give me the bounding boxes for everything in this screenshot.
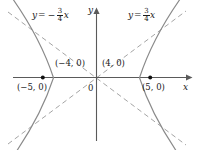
x-axis-label: x <box>183 82 188 92</box>
asymptote-left-numerator: 3 <box>57 8 63 15</box>
y-axis-arrow-icon <box>93 8 99 15</box>
asymptote-left-sign: − <box>47 11 57 20</box>
asymptote-right-denominator: 4 <box>143 15 149 23</box>
y-axis-label: y <box>88 5 93 15</box>
asymptote-right-numerator: 3 <box>143 8 149 15</box>
origin-label: 0 <box>88 83 93 93</box>
asymptote-right-variable: x <box>150 11 155 20</box>
focus-right-point <box>148 76 152 80</box>
x-axis-arrow-icon <box>186 74 193 80</box>
vertex-right-label: (4, 0) <box>102 58 125 68</box>
asymptote-left-equals: = <box>37 11 47 20</box>
asymptote-left-fraction: 3 4 <box>57 8 63 24</box>
focus-left-label: (−5, 0) <box>17 82 47 92</box>
asymptote-left-equation: y = − 3 4 x <box>32 8 69 24</box>
asymptote-left-variable: x <box>64 11 69 20</box>
asymptote-right-fraction: 3 4 <box>143 8 149 24</box>
asymptote-left-denominator: 4 <box>57 15 63 23</box>
vertex-left-label: (−4, 0) <box>55 58 85 68</box>
asymptote-right-equals: = <box>133 11 143 20</box>
asymptote-right-equation: y = 3 4 x <box>128 8 155 24</box>
focus-left-point <box>41 76 45 80</box>
focus-right-label: (5, 0) <box>142 82 165 92</box>
hyperbola-figure: y = − 3 4 x y = 3 4 x (−4, 0) (4, 0) (−5… <box>0 0 197 150</box>
axes <box>13 8 193 142</box>
graph-canvas <box>0 0 197 150</box>
